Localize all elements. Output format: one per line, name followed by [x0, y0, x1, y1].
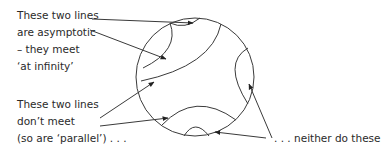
pointer-neither-2 — [215, 132, 266, 138]
geodesic-left-arc — [143, 23, 172, 68]
pointer-par-2 — [100, 118, 168, 126]
poincare-disk-diagram — [0, 0, 383, 162]
pointer-neither-1 — [249, 84, 272, 138]
geodesic-bottom-large — [162, 106, 236, 125]
pointer-par-1 — [100, 82, 154, 118]
geodesic-right-arc — [235, 48, 248, 104]
geodesic-long-arc — [141, 24, 221, 81]
